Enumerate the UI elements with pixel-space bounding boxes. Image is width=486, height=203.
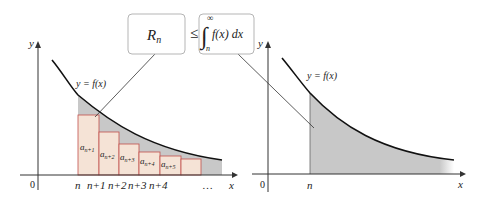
left-origin-label: 0 [30, 179, 35, 190]
right-x-label: x [457, 178, 463, 190]
left-x-arrow-icon [232, 172, 238, 178]
left-x-label: x [228, 179, 234, 191]
leq-symbol: ≤ [190, 25, 198, 41]
right-y-arrow-icon [265, 41, 271, 48]
left-curve-label: y = f(x) [75, 78, 107, 90]
formula-callout: Rn ≤ ∫ ∞ n f(x) dx [95, 13, 314, 128]
tick-n3: n+3 [128, 179, 147, 191]
right-gray-area [310, 93, 454, 174]
left-x-ticks: n n+1 n+2 n+3 n+4 … [75, 179, 213, 191]
right-tick-n: n [307, 179, 313, 191]
right-curve-label: y = f(x) [306, 70, 338, 82]
rect-a-n6 [181, 159, 201, 175]
tick-ellipsis: … [202, 179, 213, 191]
integrand: f(x) dx [212, 27, 244, 41]
tick-n4: n+4 [149, 179, 168, 191]
tick-n2: n+2 [108, 179, 127, 191]
left-y-label: y [28, 37, 34, 49]
left-panel: y x 0 y = f(x) n n+1 n+2 n+3 n+4 … an+1 … [20, 37, 238, 191]
right-origin-label: 0 [260, 179, 265, 190]
left-y-arrow-icon [35, 41, 41, 48]
tick-n: n [75, 179, 81, 191]
integral-test-diagram: y x 0 y = f(x) n n+1 n+2 n+3 n+4 … an+1 … [0, 0, 486, 203]
right-panel: y x 0 n y = f(x) [252, 37, 466, 192]
right-y-label: y [257, 37, 263, 49]
integral-lower-limit: n [206, 44, 210, 53]
integral-upper-limit: ∞ [207, 13, 213, 23]
pointer-line-integral [238, 54, 314, 128]
right-x-arrow-icon [460, 171, 466, 177]
tick-n1: n+1 [87, 179, 105, 191]
